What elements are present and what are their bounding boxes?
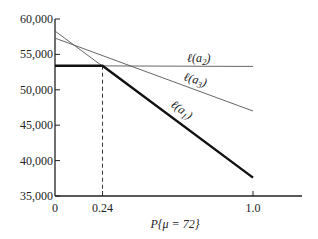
x-tick-label: 0 xyxy=(52,201,58,215)
chart: 60,00055,00050,00045,00040,00035,00000.2… xyxy=(0,0,318,239)
y-tick-label: 50,000 xyxy=(20,83,53,97)
x-tick-label: 0.24 xyxy=(92,201,113,215)
y-tick-label: 45,000 xyxy=(20,118,53,132)
y-tick-label: 40,000 xyxy=(20,154,53,168)
series-label: ℓ(a1) xyxy=(167,97,195,124)
series-label: ℓ(a3) xyxy=(182,69,209,91)
plot-area: 60,00055,00050,00045,00040,00035,00000.2… xyxy=(20,12,302,231)
optimal-envelope-line xyxy=(55,66,253,178)
series-line xyxy=(55,38,253,111)
y-tick-label: 60,000 xyxy=(20,12,53,26)
y-tick-label: 55,000 xyxy=(20,47,53,61)
series-label: ℓ(a2) xyxy=(187,51,211,67)
y-tick-label: 35,000 xyxy=(20,189,53,203)
x-axis-title: P{μ = 72} xyxy=(149,217,199,231)
x-tick-label: 1.0 xyxy=(246,201,261,215)
